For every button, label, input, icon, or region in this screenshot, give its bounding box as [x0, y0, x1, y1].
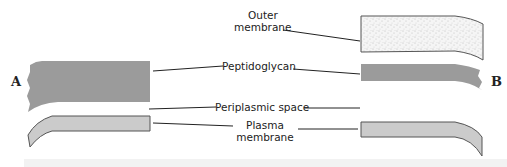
label-plasma-membrane: Plasma membrane: [232, 119, 298, 143]
structure-b: [361, 16, 483, 156]
plasma-membrane-b: [361, 122, 482, 156]
label-plasma-membrane-line2: membrane: [232, 131, 298, 143]
leader-periplasmic-left: [149, 107, 216, 109]
leader-peptidoglycan-right: [293, 69, 360, 74]
structure-a: [27, 61, 150, 147]
outer-membrane-b: [361, 16, 483, 60]
label-outer-membrane-line1: Outer: [228, 9, 298, 21]
label-plasma-membrane-line1: Plasma: [232, 119, 298, 131]
peptidoglycan-layer-a: [27, 61, 150, 112]
label-outer-membrane: Outer membrane: [228, 9, 298, 33]
label-a: A: [11, 74, 21, 89]
label-b: B: [491, 74, 502, 89]
leader-lines: [149, 30, 360, 129]
leader-plasma-left: [153, 123, 233, 126]
label-peptidoglycan: Peptidoglycan: [222, 60, 294, 72]
plasma-membrane-a: [28, 116, 150, 147]
label-periplasmic-space: Periplasmic space: [215, 101, 305, 113]
bottom-divider: [24, 159, 507, 167]
leader-peptidoglycan-left: [153, 66, 223, 71]
label-outer-membrane-line2: membrane: [228, 21, 298, 33]
peptidoglycan-layer-b: [361, 64, 482, 90]
